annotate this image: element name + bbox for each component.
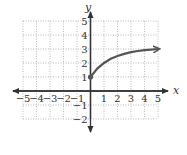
x-axis-label: x [173,84,180,97]
x-tick-label: 1 [101,93,107,104]
y-axis-label: y [84,1,92,14]
y-tick-label: −2 [73,114,88,125]
x-tick-label: 2 [114,93,120,104]
y-tick-label: 3 [81,44,87,55]
x-tick-label: 3 [128,93,134,104]
y-tick-label: 4 [81,30,87,41]
x-tick-label: 5 [155,93,161,104]
y-tick-label: 5 [81,16,87,27]
y-tick-label: −1 [73,100,88,111]
y-tick-label: 1 [81,72,87,83]
start-point-dot [88,74,93,79]
x-tick-label: 4 [141,93,147,104]
function-graph: −5−4−3−2−11234554321−1−2 x y [0,0,187,155]
y-tick-label: 2 [81,58,87,69]
tick-labels: −5−4−3−2−11234554321−1−2 [16,16,162,125]
